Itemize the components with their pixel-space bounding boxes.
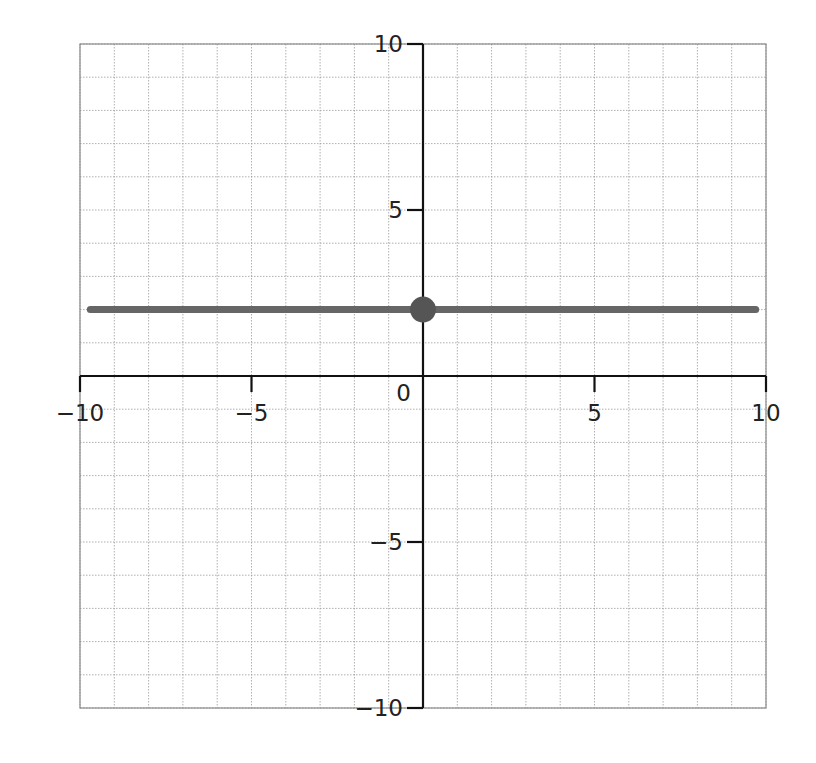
- x-tick-label: 5: [587, 400, 602, 426]
- y-tick-label: 10: [374, 31, 403, 57]
- y-intercept-point: [410, 297, 436, 323]
- coordinate-plane: −10−5510−10−55100: [0, 0, 816, 763]
- x-tick-label: 10: [751, 400, 780, 426]
- y-tick-label: −10: [354, 695, 403, 721]
- x-tick-label: −10: [56, 400, 105, 426]
- x-tick-label: −5: [235, 400, 269, 426]
- origin-label: 0: [396, 380, 411, 406]
- data-points: [410, 297, 436, 323]
- y-tick-label: 5: [388, 197, 403, 223]
- y-tick-label: −5: [369, 529, 403, 555]
